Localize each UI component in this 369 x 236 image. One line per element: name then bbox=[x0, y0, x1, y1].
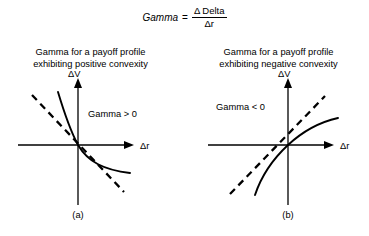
panel-a-caption: (a) bbox=[58, 210, 98, 220]
x-axis-label-a: Δr bbox=[140, 141, 149, 151]
panel-a-title: Gamma for a payoff profile exhibiting po… bbox=[8, 47, 173, 70]
x-axis-label-b: Δr bbox=[340, 141, 349, 151]
annotation-gamma-negative: Gamma < 0 bbox=[216, 102, 265, 112]
formula-denominator: Δr bbox=[202, 18, 216, 29]
figure-canvas: Gamma = Δ Delta Δr Gamma for a payoff pr… bbox=[0, 0, 369, 236]
gamma-formula: Gamma = Δ Delta Δr bbox=[0, 6, 369, 29]
annotation-gamma-positive: Gamma > 0 bbox=[88, 109, 137, 119]
y-axis-label-a: ΔV bbox=[68, 70, 81, 79]
chart-positive-convexity: Δr ΔV Gamma > 0 bbox=[0, 70, 185, 210]
panel-b-title: Gamma for a payoff profile exhibiting ne… bbox=[196, 47, 361, 70]
formula-lhs: Gamma bbox=[142, 12, 178, 23]
formula-numerator: Δ Delta bbox=[192, 6, 227, 17]
formula-equals-sign: = bbox=[182, 12, 188, 23]
y-axis-label-b: ΔV bbox=[278, 70, 291, 79]
chart-negative-convexity: Δr ΔV Gamma < 0 bbox=[184, 70, 369, 210]
panel-b-caption: (b) bbox=[268, 210, 308, 220]
x-axis-b bbox=[208, 141, 334, 149]
formula-fraction: Δ Delta Δr bbox=[192, 6, 227, 29]
